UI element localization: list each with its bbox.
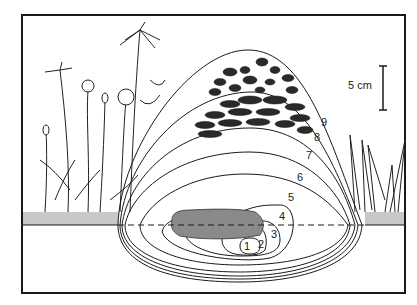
scale-bar-label: 5 cm [348, 79, 372, 91]
label-8: 8 [314, 131, 320, 143]
label-2: 2 [258, 238, 264, 250]
label-4: 4 [279, 210, 285, 222]
label-5: 5 [288, 191, 294, 203]
label-7: 7 [306, 149, 312, 161]
diagram-canvas: 9 8 7 6 5 4 3 2 1 5 cm [0, 0, 417, 305]
figure-frame [22, 15, 405, 293]
dung-pat [171, 209, 263, 239]
label-1: 1 [244, 240, 250, 252]
label-3: 3 [271, 228, 277, 240]
label-9: 9 [321, 116, 327, 128]
label-6: 6 [297, 171, 303, 183]
